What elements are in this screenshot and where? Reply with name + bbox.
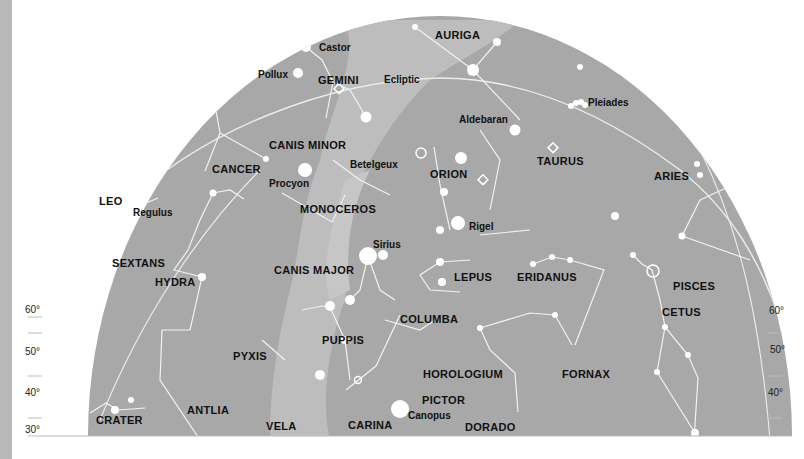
ecliptic-label: Ecliptic	[384, 74, 420, 85]
scale-left-30: 30°	[25, 424, 40, 435]
star-canopus: Canopus	[408, 410, 451, 421]
constellation-hydra: HYDRA	[155, 276, 196, 288]
constellation-cetus: CETUS	[662, 306, 701, 318]
scale-right-50: 50°	[770, 344, 785, 355]
star-pollux: Pollux	[258, 69, 288, 80]
star-aldebaran: Aldebaran	[459, 114, 508, 125]
star-procyon: Procyon	[269, 178, 309, 189]
constellation-taurus: TAURUS	[537, 155, 584, 167]
star-sirius: Sirius	[373, 239, 401, 250]
scale-left-50: 50°	[25, 346, 40, 357]
constellation-eridanus: ERIDANUS	[517, 271, 577, 283]
constellation-pisces: PISCES	[673, 280, 715, 292]
scale-right-40: 40°	[768, 387, 783, 398]
constellation-antlia: ANTLIA	[187, 404, 229, 416]
constellation-cancer: CANCER	[212, 163, 261, 175]
constellation-sextans: SEXTANS	[112, 257, 165, 269]
constellation-vela: VELA	[266, 420, 297, 432]
star-betelgeux: Betelgeux	[350, 159, 398, 170]
constellation-aries: ARIES	[654, 170, 689, 182]
constellation-canis-minor: CANIS MINOR	[269, 139, 346, 151]
star-castor: Castor	[319, 42, 351, 53]
constellation-monoceros: MONOCEROS	[300, 203, 376, 215]
constellation-canis-major: CANIS MAJOR	[274, 264, 354, 276]
star-pleiades: Pleiades	[588, 97, 629, 108]
constellation-pyxis: PYXIS	[233, 350, 267, 362]
constellation-puppis: PUPPIS	[322, 334, 364, 346]
star-regulus: Regulus	[133, 207, 173, 218]
constellation-orion: ORION	[430, 168, 468, 180]
constellation-auriga: AURIGA	[435, 29, 480, 41]
constellation-dorado: DORADO	[465, 421, 516, 433]
constellation-crater: CRATER	[96, 414, 143, 426]
constellation-leo: LEO	[99, 195, 123, 207]
scale-left-40: 40°	[25, 387, 40, 398]
scale-left-60: 60°	[25, 304, 40, 315]
constellation-pictor: PICTOR	[422, 394, 465, 406]
constellation-fornax: FORNAX	[562, 368, 611, 380]
constellation-columba: COLUMBA	[400, 313, 458, 325]
constellation-gemini: GEMINI	[318, 74, 359, 86]
star-rigel: Rigel	[469, 221, 494, 232]
constellation-lepus: LEPUS	[454, 271, 492, 283]
scale-right-60: 60°	[769, 305, 784, 316]
constellation-carina: CARINA	[348, 419, 393, 431]
constellation-horologium: HOROLOGIUM	[423, 368, 503, 380]
star-chart: 60° 50° 40° 30° 60° 50° 40° Ecliptic AUR…	[0, 0, 804, 459]
